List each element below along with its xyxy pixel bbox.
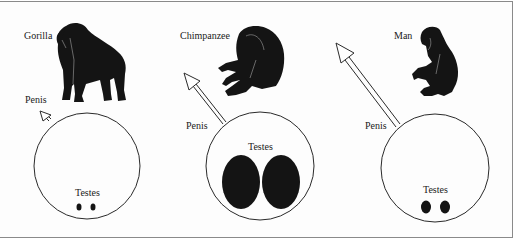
species-label-gorilla: Gorilla [24, 30, 53, 41]
panel-gorilla: Gorilla Penis Testes [24, 23, 140, 219]
panel-man: Man Penis Testes [336, 27, 489, 222]
species-label-chimpanzee: Chimpanzee [180, 30, 231, 41]
penis-arrow-gorilla [40, 111, 51, 121]
testes-label-gorilla: Testes [75, 187, 100, 198]
testis-left-gorilla [77, 204, 82, 211]
penis-arrow-chimpanzee [184, 73, 226, 124]
penis-label-chimpanzee: Penis [186, 120, 208, 131]
testis-right-gorilla [91, 204, 96, 211]
testes-label-man: Testes [423, 184, 448, 195]
species-label-man: Man [394, 30, 412, 41]
penis-label-gorilla: Penis [25, 94, 47, 105]
body-size-circle-man [381, 114, 489, 222]
man-silhouette-icon [412, 27, 458, 96]
panel-chimpanzee: Chimpanzee Penis Testes [180, 26, 314, 220]
comparison-diagram: Gorilla Penis Testes Chimpanzee [0, 0, 522, 251]
testes-label-chimpanzee: Testes [248, 141, 273, 152]
penis-label-man: Penis [365, 120, 387, 131]
testis-right-man [440, 201, 450, 214]
body-size-circle-chimpanzee [206, 112, 314, 220]
testis-right-chimpanzee [262, 155, 300, 209]
body-size-circle-gorilla [34, 113, 140, 219]
testis-left-chimpanzee [222, 155, 260, 209]
penis-arrow-man [336, 43, 400, 127]
testis-left-man [421, 201, 431, 214]
gorilla-silhouette-icon [57, 23, 126, 102]
